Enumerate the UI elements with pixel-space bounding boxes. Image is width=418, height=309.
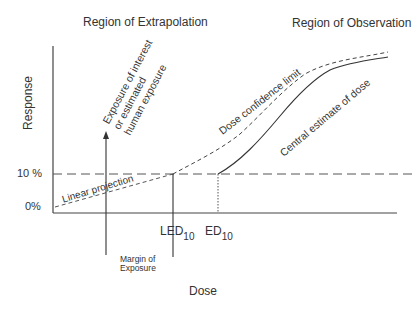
ed10-label: ED10	[205, 225, 233, 242]
y-axis-label: Response	[22, 76, 34, 130]
region-observation-label: Region of Observation	[292, 17, 411, 29]
dose-confidence-limit-curve	[173, 52, 388, 174]
region-extrapolation-label: Region of Extrapolation	[83, 16, 208, 28]
margin-line-2: Exposure	[120, 264, 156, 273]
x-axis-label: Dose	[189, 285, 217, 297]
ed-subscript: 10	[222, 231, 233, 242]
tick-0-percent: 0%	[25, 201, 41, 212]
margin-of-exposure-label: Margin of Exposure	[120, 255, 156, 273]
ed-text: ED	[205, 224, 222, 238]
led-subscript: 10	[183, 231, 194, 242]
led-text: LED	[160, 224, 183, 238]
led10-label: LED10	[160, 225, 194, 242]
tick-10-percent: 10 %	[17, 168, 42, 179]
dose-response-diagram	[0, 0, 418, 309]
arrow-head-icon	[103, 131, 109, 139]
